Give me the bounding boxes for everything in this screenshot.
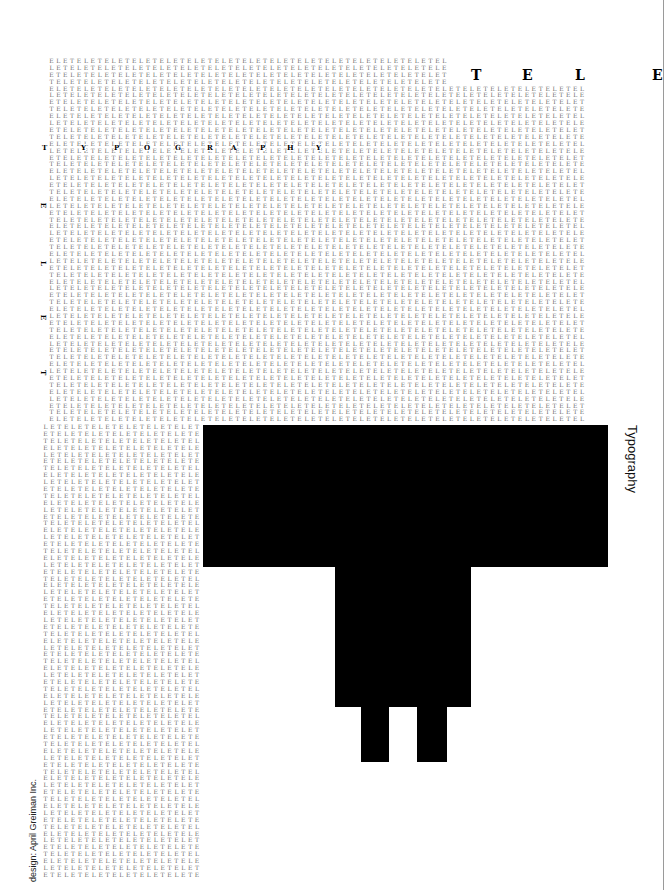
grid-main-wide: ELETELETELETELETELETELETELETELETELETELET… [48,86,585,424]
margin-letter: E [40,203,47,208]
inline-letter: A [231,144,236,151]
inline-letter: R [207,144,213,151]
inline-letter: T [42,144,47,151]
inline-letter: Y [316,144,321,151]
inline-letter: Y [81,144,86,151]
header-letter: E [522,68,533,82]
side-label: Typography [625,425,640,493]
header-letter: E [652,68,663,82]
t-shape-stem [335,566,471,707]
inline-letter: G [175,144,181,151]
margin-letter: E [40,315,47,320]
t-shape-crossbar [203,425,608,567]
header-letter: L [575,68,585,82]
inline-letter: H [287,144,294,151]
inline-letter: O [144,144,150,151]
grid-left-column: LETELETELETELETELETELETETELETELETELETELE… [42,424,200,879]
margin-letter: T [40,370,47,375]
t-shape-leg-left [361,705,389,762]
grid-top-narrow: ELETELETELETELETELETELETELETELETELETELET… [48,58,448,86]
inline-letter: P [114,144,119,151]
t-shape-leg-right [417,705,447,762]
inline-letter: P [260,144,265,151]
design-credit: design: April Greiman Inc. [28,779,38,882]
margin-letter: L [40,261,47,266]
page-edge-line [663,0,664,890]
header-letter: T [471,68,481,82]
